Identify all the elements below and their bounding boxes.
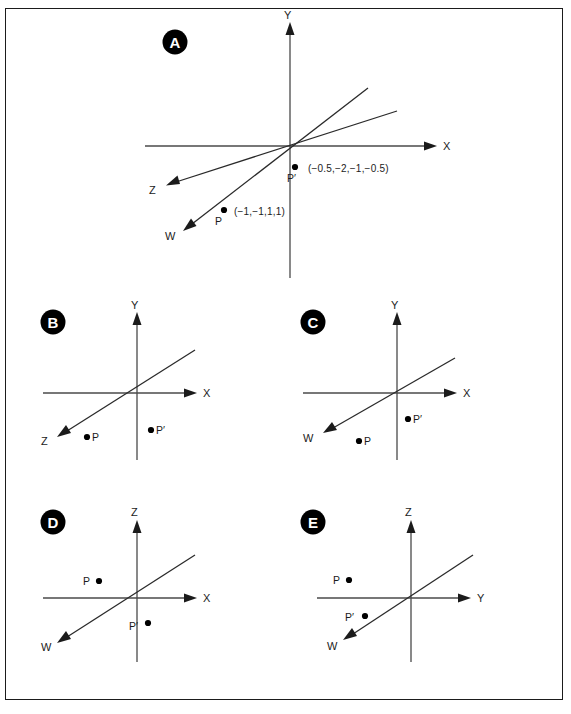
point-p-prime-label: P′ xyxy=(156,424,165,436)
axis-label-x: X xyxy=(463,387,471,399)
point-p-prime: P′ xyxy=(345,611,368,623)
axis-x-arrowhead xyxy=(184,389,197,398)
panel-a-badge: A xyxy=(163,30,188,55)
point-p-prime-dot xyxy=(145,620,151,626)
point-p-prime-label: P′ xyxy=(287,172,296,184)
axis-w-arrowhead xyxy=(343,628,357,640)
axis-label-w: W xyxy=(327,640,338,652)
axis-label-y: Y xyxy=(477,592,485,604)
panel-a: A Y X Z xyxy=(135,14,455,289)
badge-letter-d: D xyxy=(48,514,59,531)
badge-letter-b: B xyxy=(48,314,59,331)
axis-x-arrowhead xyxy=(444,389,457,398)
axis-y-arrowhead xyxy=(393,312,402,325)
axis-label-y: Y xyxy=(284,9,292,21)
axis-label-y: Y xyxy=(391,299,399,311)
axis-label-y: Y xyxy=(131,299,139,311)
axis-z-arrowhead xyxy=(407,520,416,533)
panel-b-badge: B xyxy=(41,310,66,335)
axis-w: W xyxy=(327,555,473,652)
badge-letter-e: E xyxy=(308,514,318,531)
axis-z-arrowhead xyxy=(57,425,71,437)
point-p-prime-label: P′ xyxy=(413,413,422,425)
axis-y-arrowhead xyxy=(133,312,142,325)
panel-b: B Y X Z P P′ xyxy=(35,300,270,465)
axis-z: Z xyxy=(405,506,416,662)
axis-x-arrowhead xyxy=(424,142,437,151)
axis-x-arrowhead xyxy=(184,594,197,603)
point-p-coords: (−1,−1,1,1) xyxy=(234,206,285,217)
point-p-label: P xyxy=(333,574,340,586)
point-p-dot xyxy=(346,577,352,583)
axis-z-arrowhead xyxy=(166,176,180,186)
axis-y: Y xyxy=(131,299,142,460)
axis-y: Y xyxy=(391,299,402,460)
point-p-prime: P′ xyxy=(405,413,422,425)
point-p: P (−1,−1,1,1) xyxy=(215,206,285,227)
axis-z: Z xyxy=(149,111,397,196)
axis-label-z: Z xyxy=(131,506,138,518)
panel-c-badge: C xyxy=(301,310,326,335)
axis-label-w: W xyxy=(303,432,314,444)
point-p-prime-dot xyxy=(292,164,298,170)
point-p-dot xyxy=(96,578,102,584)
point-p-prime-dot xyxy=(362,613,368,619)
axis-label-z: Z xyxy=(405,506,412,518)
axis-label-x: X xyxy=(203,592,211,604)
panel-c: C Y X W P P′ xyxy=(295,300,530,465)
axis-w: W xyxy=(41,555,195,653)
point-p-dot xyxy=(221,207,227,213)
point-p-label: P xyxy=(215,215,222,227)
badge-letter-a: A xyxy=(170,34,181,51)
point-p: P xyxy=(356,435,371,447)
point-p-prime-dot xyxy=(405,416,411,422)
axis-label-z: Z xyxy=(41,435,48,447)
figure-root: A Y X Z xyxy=(0,0,571,714)
axis-z-arrowhead xyxy=(133,520,142,533)
point-p-prime: P′ xyxy=(148,424,165,436)
axis-w-arrowhead xyxy=(183,219,197,232)
axis-w: W xyxy=(303,358,455,444)
axis-y-arrowhead xyxy=(286,22,295,35)
axis-label-w: W xyxy=(41,641,52,653)
axis-label-x: X xyxy=(203,387,211,399)
point-p-prime: P′ (−0.5,−2,−1,−0.5) xyxy=(287,163,389,184)
panel-d-badge: D xyxy=(41,510,66,535)
point-p-prime-label: P′ xyxy=(345,611,354,623)
axis-w-arrowhead xyxy=(57,631,71,643)
badge-letter-c: C xyxy=(308,314,319,331)
axis-w-arrowhead xyxy=(323,422,337,433)
point-p-dot xyxy=(84,434,90,440)
point-p: P xyxy=(83,575,102,587)
point-p: P xyxy=(84,431,99,443)
panel-e: E Z Y W P P′ xyxy=(295,500,530,665)
axis-y-arrowhead xyxy=(458,594,471,603)
point-p-prime: P′ xyxy=(129,620,151,632)
point-p: P xyxy=(333,574,352,586)
axis-y: Y xyxy=(284,9,295,278)
axis-label-w: W xyxy=(165,230,176,242)
point-p-prime-label: P′ xyxy=(129,620,138,632)
point-p-label: P xyxy=(92,431,99,443)
axis-label-x: X xyxy=(443,140,451,152)
point-p-prime-dot xyxy=(148,427,154,433)
panel-d: D Z X W P P′ xyxy=(35,500,270,665)
point-p-prime-coords: (−0.5,−2,−1,−0.5) xyxy=(308,163,389,174)
point-p-label: P xyxy=(83,575,90,587)
point-p-dot xyxy=(356,438,362,444)
point-p-label: P xyxy=(364,435,371,447)
panel-e-badge: E xyxy=(301,510,326,535)
axis-z: Z xyxy=(41,350,195,447)
axis-label-z: Z xyxy=(149,184,156,196)
axis-z: Z xyxy=(131,506,142,662)
